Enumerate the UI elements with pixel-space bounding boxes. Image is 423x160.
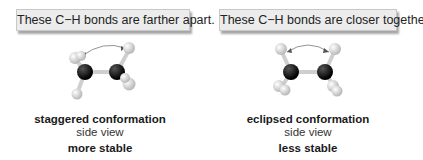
staggered-conformation-label: staggered conformation (10, 113, 190, 125)
staggered-view-label: side view (10, 126, 190, 138)
eclipsed-stability-label: less stable (218, 142, 398, 154)
callout-eclipsed: These C−H bonds are closer together. (219, 9, 397, 31)
eclipsed-view-label: side view (218, 126, 398, 138)
staggered-ethane-model-icon (55, 36, 155, 104)
callout-staggered: These C−H bonds are farther apart. (16, 9, 190, 31)
eclipsed-conformation-label: eclipsed conformation (218, 113, 398, 125)
eclipsed-ethane-model-icon (265, 36, 365, 104)
staggered-stability-label: more stable (10, 142, 190, 154)
